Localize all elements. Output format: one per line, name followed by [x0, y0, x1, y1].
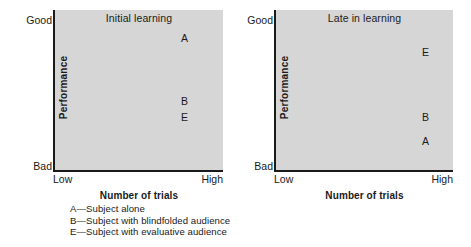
- y-tick-bad-left: Bad: [33, 160, 55, 172]
- legend-item-a: A—Subject alone: [70, 203, 230, 215]
- plot-area-initial-learning: [55, 10, 223, 170]
- legend-item-e: E—Subject with evaluative audience: [70, 226, 230, 238]
- panel-late-in-learning: Late in learning Good Bad Low High Perfo…: [276, 10, 453, 170]
- y-tick-good-left: Good: [26, 14, 55, 26]
- series-label-a-initial: A: [181, 32, 188, 44]
- x-axis-label-left: Number of trials: [55, 190, 223, 201]
- x-tick-high-left: High: [201, 173, 223, 185]
- social-facilitation-figure: Initial learning Good Bad Low High Perfo…: [0, 0, 471, 247]
- y-axis-line-left: [53, 10, 55, 172]
- y-axis-label-left: Performance: [58, 48, 69, 128]
- series-label-b-initial: B: [181, 95, 188, 107]
- x-axis-line-left: [53, 170, 223, 172]
- panel-title-late-in-learning: Late in learning: [276, 12, 453, 24]
- y-axis-label-right: Performance: [279, 48, 290, 128]
- legend: A—Subject alone B—Subject with blindfold…: [70, 203, 230, 238]
- x-tick-low-left: Low: [53, 173, 72, 185]
- x-tick-low-right: Low: [274, 173, 293, 185]
- y-tick-bad-right: Bad: [254, 160, 276, 172]
- series-label-b-late: B: [422, 111, 429, 123]
- series-label-a-late: A: [422, 135, 429, 147]
- series-label-e-late: E: [422, 46, 429, 58]
- y-tick-good-right: Good: [247, 14, 276, 26]
- x-tick-high-right: High: [431, 173, 453, 185]
- panel-title-initial-learning: Initial learning: [55, 12, 223, 24]
- legend-item-b: B—Subject with blindfolded audience: [70, 215, 230, 227]
- panel-initial-learning: Initial learning Good Bad Low High Perfo…: [55, 10, 223, 170]
- series-label-e-initial: E: [181, 111, 188, 123]
- y-axis-line-right: [274, 10, 276, 172]
- x-axis-label-right: Number of trials: [276, 190, 453, 201]
- x-axis-line-right: [274, 170, 453, 172]
